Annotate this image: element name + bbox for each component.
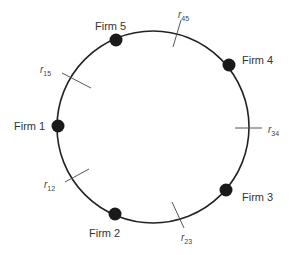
firm-dot-firm2 bbox=[109, 208, 122, 221]
firm-label-firm4: Firm 4 bbox=[242, 54, 273, 66]
boundary-tick-r23 bbox=[172, 202, 184, 228]
firm-dot-firm5 bbox=[110, 34, 123, 47]
firm-dot-firm1 bbox=[52, 120, 65, 133]
boundary-label-r45: r45 bbox=[178, 9, 189, 22]
firm-label-firm2: Firm 2 bbox=[89, 227, 120, 239]
firm-dot-firm4 bbox=[223, 59, 236, 72]
boundary-ticks bbox=[62, 20, 262, 228]
firm-label-firm5: Firm 5 bbox=[95, 20, 126, 32]
firm-label-firm1: Firm 1 bbox=[14, 120, 45, 132]
boundary-label-r12: r12 bbox=[44, 179, 55, 192]
boundary-label-r34: r34 bbox=[268, 124, 279, 137]
boundary-label-r23: r23 bbox=[181, 232, 192, 245]
market-circle bbox=[57, 31, 249, 223]
boundary-tick-r12 bbox=[65, 169, 89, 182]
firm-dots bbox=[52, 34, 236, 221]
boundary-label-r15: r15 bbox=[40, 64, 51, 77]
firm-dot-firm3 bbox=[220, 184, 233, 197]
circular-market-diagram: r15r45r34r23r12Firm 1Firm 2Firm 3Firm 4F… bbox=[0, 0, 292, 255]
firm-label-firm3: Firm 3 bbox=[242, 191, 273, 203]
